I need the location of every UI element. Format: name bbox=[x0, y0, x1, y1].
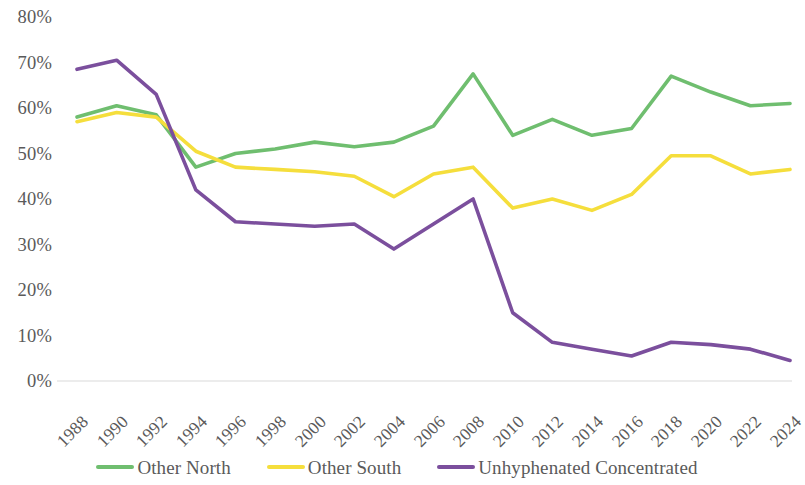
x-tick-label: 2014 bbox=[569, 413, 607, 451]
x-tick-label: 2022 bbox=[727, 413, 765, 451]
x-tick-label: 2002 bbox=[331, 413, 369, 451]
x-tick-label: 1990 bbox=[94, 413, 132, 451]
x-tick-label: 1994 bbox=[173, 413, 211, 451]
x-tick-label: 1988 bbox=[54, 413, 92, 451]
legend-item[interactable]: Unhyphenated Concentrated bbox=[437, 458, 697, 477]
legend-label: Other North bbox=[137, 458, 230, 477]
x-tick-label: 1992 bbox=[133, 413, 171, 451]
x-tick-label: 2010 bbox=[490, 413, 528, 451]
x-tick-label: 2012 bbox=[529, 413, 567, 451]
legend-item[interactable]: Other North bbox=[96, 458, 230, 477]
x-tick-label: 1996 bbox=[212, 413, 250, 451]
legend-swatch-icon bbox=[96, 465, 134, 469]
chart-legend: Other NorthOther SouthUnhyphenated Conce… bbox=[0, 452, 794, 482]
x-tick-label: 2004 bbox=[371, 413, 409, 451]
x-tick-label: 2024 bbox=[767, 413, 805, 451]
x-tick-label: 2020 bbox=[688, 413, 726, 451]
x-tick-label: 2000 bbox=[292, 413, 330, 451]
legend-swatch-icon bbox=[267, 465, 305, 469]
legend-item[interactable]: Other South bbox=[267, 458, 401, 477]
x-tick-label: 2016 bbox=[609, 413, 647, 451]
x-tick-label: 2018 bbox=[648, 413, 686, 451]
legend-swatch-icon bbox=[437, 465, 475, 469]
legend-label: Other South bbox=[308, 458, 401, 477]
x-tick-label: 1998 bbox=[252, 413, 290, 451]
x-tick-label: 2006 bbox=[411, 413, 449, 451]
legend-label: Unhyphenated Concentrated bbox=[478, 458, 697, 477]
x-tick-label: 2008 bbox=[450, 413, 488, 451]
